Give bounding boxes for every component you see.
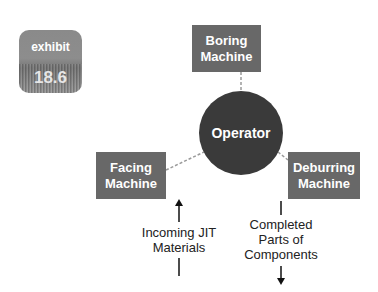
- boring-machine-node: Boring Machine: [192, 25, 261, 72]
- deburring-machine-node: Deburring Machine: [288, 152, 360, 199]
- exhibit-number: 18.6: [19, 68, 82, 88]
- exhibit-badge: exhibit 18.6: [19, 30, 82, 93]
- facing-machine-node: Facing Machine: [96, 152, 166, 199]
- exhibit-label: exhibit: [19, 40, 82, 54]
- incoming-materials-label: Incoming JIT Materials: [129, 225, 229, 255]
- operator-node: Operator: [199, 91, 283, 175]
- completed-parts-label: Completed Parts of Components: [236, 217, 326, 262]
